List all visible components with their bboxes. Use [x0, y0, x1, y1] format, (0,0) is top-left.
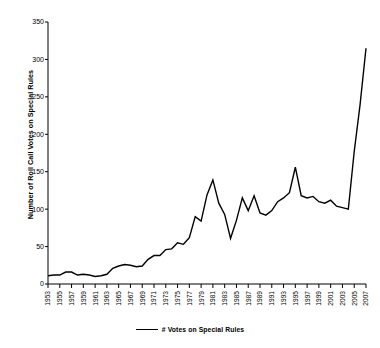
x-tick-label: 1959 — [80, 291, 87, 306]
x-tick-label: 1989 — [256, 291, 263, 306]
x-tick-label: 1955 — [56, 291, 63, 306]
y-tick-label: 0 — [40, 280, 44, 287]
legend-label: # Votes on Special Rules — [162, 326, 244, 333]
x-tick-label: 1987 — [245, 291, 252, 306]
y-tick-label: 300 — [32, 56, 44, 63]
x-tick-label: 1997 — [304, 291, 311, 306]
x-tick-label: 2007 — [362, 291, 369, 306]
x-axis-tick-marks — [48, 284, 366, 288]
x-tick-label: 1961 — [92, 291, 99, 306]
x-tick-label: 1979 — [198, 291, 205, 306]
x-tick-label: 1981 — [209, 291, 216, 306]
y-tick-label: 50 — [36, 243, 44, 250]
y-tick-label: 100 — [32, 206, 44, 213]
x-tick-label: 1965 — [115, 291, 122, 306]
y-tick-label: 250 — [32, 93, 44, 100]
x-tick-label: 1983 — [221, 291, 228, 306]
x-tick-label: 1991 — [268, 291, 275, 306]
data-series-line — [48, 48, 366, 276]
x-tick-label: 1963 — [103, 291, 110, 306]
x-tick-label: 1993 — [280, 291, 287, 306]
line-chart-plot: 050100150200250300350 195319551957195919… — [0, 0, 380, 348]
legend-line-swatch — [136, 329, 158, 330]
x-tick-label: 1967 — [127, 291, 134, 306]
x-tick-label: 1971 — [150, 291, 157, 306]
x-tick-label: 1977 — [186, 291, 193, 306]
y-tick-label: 350 — [32, 18, 44, 25]
x-tick-label: 1973 — [162, 291, 169, 306]
y-tick-label: 200 — [32, 131, 44, 138]
x-tick-label: 1985 — [233, 291, 240, 306]
chart-legend: # Votes on Special Rules — [0, 326, 380, 333]
y-tick-label: 150 — [32, 168, 44, 175]
x-tick-label: 2005 — [351, 291, 358, 306]
x-axis-tick-labels: 1953195519571959196119631965196719691971… — [44, 291, 369, 306]
y-axis-tick-labels: 050100150200250300350 — [32, 18, 44, 287]
x-tick-label: 1969 — [139, 291, 146, 306]
x-tick-label: 1953 — [44, 291, 51, 306]
chart-figure: Number of Roll Call Votes on Special Rul… — [0, 0, 380, 348]
x-tick-label: 1995 — [292, 291, 299, 306]
x-tick-label: 1975 — [174, 291, 181, 306]
x-tick-label: 1957 — [68, 291, 75, 306]
x-tick-label: 2003 — [339, 291, 346, 306]
x-tick-label: 1999 — [315, 291, 322, 306]
x-tick-label: 2001 — [327, 291, 334, 306]
